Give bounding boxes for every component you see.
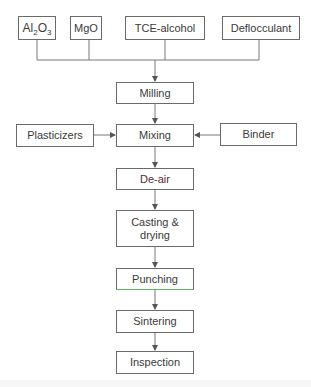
plasticizers-label: Plasticizers [27,129,83,142]
input-deflocculant: Deflocculant [222,16,300,40]
deflocculant-label: Deflocculant [231,22,292,35]
bottom-strip [0,380,311,387]
input-mgo: MgO [70,16,102,40]
step-inspection: Inspection [116,351,194,374]
milling-label: Milling [139,87,170,100]
step-milling: Milling [116,82,194,104]
step-sintering: Sintering [116,310,194,333]
mgo-label: MgO [74,22,98,35]
sintering-label: Sintering [133,315,176,328]
de-air-label: De-air [140,173,170,186]
step-punching: Punching [116,268,194,290]
input-binder: Binder [220,123,297,146]
tce-alcohol-label: TCE-alcohol [135,22,196,35]
input-plasticizers: Plasticizers [16,124,94,147]
input-tce-alcohol: TCE-alcohol [125,16,205,40]
inspection-label: Inspection [130,356,180,369]
al2o3-label: Al2O3 [23,22,52,35]
binder-label: Binder [243,128,275,141]
step-de-air: De-air [116,168,194,190]
punching-label: Punching [132,273,178,286]
step-casting-drying: Casting & drying [116,210,194,247]
input-al2o3: Al2O3 [18,16,56,40]
casting-label-line2: drying [140,229,170,242]
mixing-label: Mixing [139,129,171,142]
step-mixing: Mixing [116,124,194,147]
casting-label-line1: Casting & [131,216,179,229]
